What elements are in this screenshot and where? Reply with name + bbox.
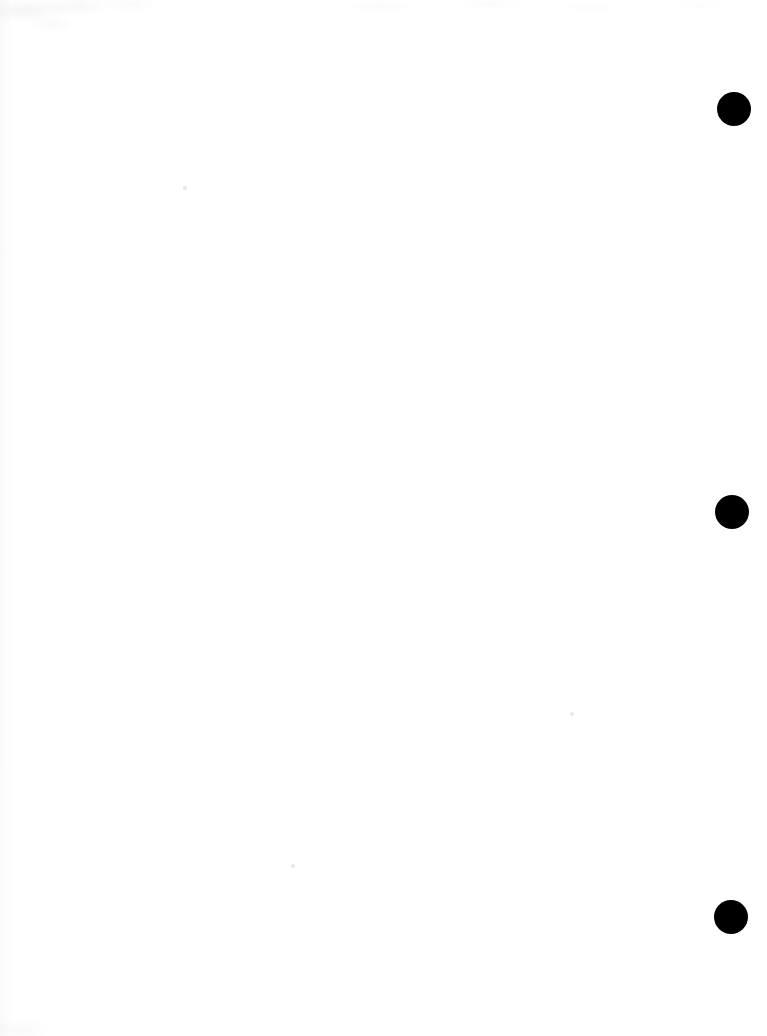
punch-dot-bottom: [714, 900, 748, 934]
scan-artifact-top-left: [0, 0, 230, 34]
scan-artifact-top-band: [230, 0, 767, 22]
punch-dot-middle: [715, 495, 749, 529]
punch-dot-top: [717, 92, 751, 126]
scan-artifact-left-edge: [0, 0, 14, 1036]
scanned-page: [0, 0, 767, 1036]
page-body-text: [70, 70, 670, 960]
scan-artifact-bottom-left: [0, 996, 90, 1036]
